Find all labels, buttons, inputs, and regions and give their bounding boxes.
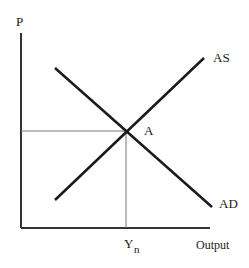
equilibrium-label: A xyxy=(144,123,154,138)
natural-output-label: Y xyxy=(124,236,134,251)
y-axis-label: P xyxy=(16,14,23,29)
as-ad-diagram: P AS AD A Y n Output xyxy=(0,0,249,268)
ad-label: AD xyxy=(219,196,238,211)
x-axis-label: Output xyxy=(196,238,230,252)
natural-output-subscript: n xyxy=(134,243,140,255)
as-label: AS xyxy=(213,50,230,65)
ad-curve xyxy=(55,68,212,207)
